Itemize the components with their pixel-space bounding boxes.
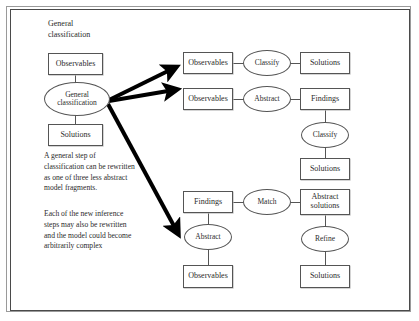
left-paragraph-1: A general step of classification can be … [44, 151, 136, 194]
left-observables-box: Observables [48, 53, 103, 75]
branch3-solutions-box: Solutions [300, 265, 350, 288]
left-heading: General classification [48, 19, 90, 41]
arrow-to-abstract-classify-branch [109, 91, 168, 101]
diagram-canvas: General classification Observables Gener… [0, 0, 419, 321]
branch3-abstract-solutions-box: Abstract solutions [300, 189, 350, 215]
connector-branch3-refine-to-solutions [325, 251, 326, 266]
branch3-findings-box: Findings [183, 191, 233, 213]
branch2-findings-box: Findings [300, 88, 350, 110]
branch2-classify-ellipse: Classify [301, 122, 349, 148]
connector-branch2-findings-to-classify [325, 109, 326, 122]
left-solutions-box: Solutions [48, 124, 103, 146]
arrow-to-classify-branch [109, 71, 168, 100]
branch3-abstract-solutions-line-2: solutions [311, 202, 340, 211]
branch1-observables-box: Observables [183, 52, 233, 74]
branch3-abstract-ellipse: Abstract [184, 224, 232, 250]
connector-branch3-abstract-solutions-to-refine [325, 214, 326, 226]
left-ellipse-label-line-2: classification [57, 99, 97, 107]
branch2-observables-box: Observables [183, 88, 233, 110]
branch2-solutions-box: Solutions [300, 158, 350, 180]
figure-root: General classification Observables Gener… [0, 0, 419, 321]
left-general-classification-ellipse: General classification [44, 82, 110, 116]
left-heading-line-1: General [48, 19, 90, 30]
branch2-abstract-ellipse: Abstract [243, 86, 291, 112]
branch3-observables-box: Observables [183, 265, 233, 288]
connector-branch3-findings-to-abstract [208, 212, 209, 224]
left-paragraph-2: Each of the new inference steps may also… [44, 209, 136, 252]
branch3-refine-ellipse: Refine [301, 226, 349, 252]
left-heading-line-2: classification [48, 30, 90, 41]
branch1-solutions-box: Solutions [300, 52, 350, 74]
branch3-match-ellipse: Match [243, 189, 291, 215]
connector-branch3-abstract-to-observables [208, 249, 209, 266]
branch1-classify-ellipse: Classify [243, 50, 291, 76]
